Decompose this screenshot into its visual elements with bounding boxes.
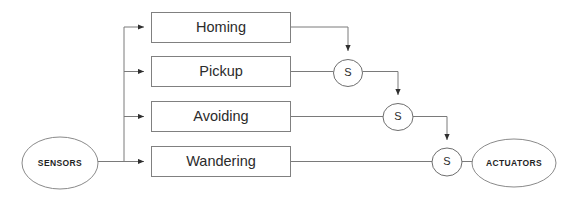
- suppressor-2-label: S: [394, 110, 401, 122]
- sensors-label: SENSORS: [38, 158, 82, 168]
- node-pickup[interactable]: Pickup: [152, 57, 291, 87]
- node-homing[interactable]: Homing: [152, 13, 291, 43]
- avoiding-label: Avoiding: [193, 108, 248, 124]
- wandering-label: Wandering: [186, 153, 256, 169]
- edge-homing-to-suppressor-1: [291, 27, 348, 51]
- node-suppressor-3[interactable]: S: [432, 148, 462, 176]
- homing-label: Homing: [196, 19, 246, 35]
- actuators-label: ACTUATORS: [486, 158, 542, 168]
- block-diagram: SENSORS Homing Pickup Avoiding Wandering…: [0, 0, 563, 198]
- suppressor-1-label: S: [344, 66, 351, 78]
- node-suppressor-2[interactable]: S: [383, 104, 413, 131]
- node-actuators[interactable]: ACTUATORS: [472, 139, 556, 187]
- node-sensors[interactable]: SENSORS: [22, 137, 98, 189]
- node-suppressor-1[interactable]: S: [334, 60, 363, 87]
- edge-suppressor-2-to-suppressor-3: [413, 117, 447, 141]
- node-wandering[interactable]: Wandering: [152, 147, 291, 177]
- edge-suppressor-1-to-suppressor-2: [363, 72, 399, 96]
- connections-group: [98, 27, 478, 162]
- diagram-canvas: SENSORS Homing Pickup Avoiding Wandering…: [0, 0, 563, 198]
- suppressor-3-label: S: [443, 155, 450, 167]
- node-avoiding[interactable]: Avoiding: [152, 102, 291, 132]
- pickup-label: Pickup: [199, 63, 243, 79]
